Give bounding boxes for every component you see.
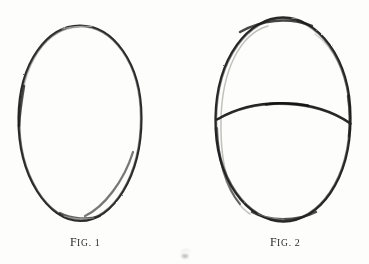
bottom-stray-mark [181, 250, 190, 258]
illustration-plate: FIG.1 FIG.2 [0, 0, 369, 264]
figure-1-caption-smallcaps: IG [77, 238, 89, 248]
figure-plate-svg [0, 0, 369, 264]
figure-2-ghost-outline [221, 26, 350, 214]
figure-1-egg-outline-shadow [19, 27, 140, 221]
figure-2-drawing [215, 18, 350, 222]
figure-2-caption-smallcaps: IG [277, 238, 289, 248]
figure-2-caption: FIG.2 [215, 232, 355, 250]
figure-2-caption-dot: . [289, 238, 294, 248]
figure-2-brow-line-shadow [219, 104, 349, 123]
figure-1-caption-lead: F [70, 235, 77, 249]
figure-2-caption-lead: F [270, 235, 277, 249]
figure-2-highlight-gaps [258, 18, 314, 219]
figure-1-caption-number: 1 [94, 237, 100, 248]
figure-1-highlight-gaps [62, 26, 94, 219]
figure-2-stroke-accents [217, 21, 350, 220]
figure-1-ghost-outline [20, 27, 80, 219]
figure-2-caption-number: 2 [294, 237, 300, 248]
figure-1-drawing [18, 26, 141, 222]
figure-1-caption-dot: . [89, 238, 94, 248]
figure-1-stroke-accents [19, 86, 133, 218]
figure-1-caption: FIG.1 [20, 232, 150, 250]
